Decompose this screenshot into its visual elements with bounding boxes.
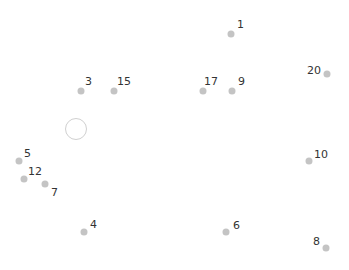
dot-label: 3 (85, 76, 92, 87)
dot-label: 17 (204, 76, 218, 87)
dot-9[interactable] (229, 88, 236, 95)
dot-12[interactable] (21, 176, 28, 183)
dot-label: 5 (24, 148, 31, 159)
dot-label: 6 (233, 220, 240, 231)
dot-7[interactable] (42, 181, 49, 188)
dot-20[interactable] (324, 71, 331, 78)
dot-5[interactable] (16, 158, 23, 165)
dot-4[interactable] (81, 229, 88, 236)
dot-label: 15 (117, 76, 131, 87)
dot-label: 4 (90, 219, 97, 230)
dot-label: 20 (307, 65, 321, 76)
dot-15[interactable] (111, 88, 118, 95)
dot-17[interactable] (200, 88, 207, 95)
dot-label: 10 (314, 149, 328, 160)
dot-8[interactable] (323, 245, 330, 252)
cursor-ring-icon (65, 118, 87, 140)
dot-puzzle-board[interactable]: 131517920512710468 (0, 0, 349, 270)
dot-1[interactable] (228, 31, 235, 38)
dot-label: 7 (51, 187, 58, 198)
dot-10[interactable] (306, 158, 313, 165)
dot-label: 9 (238, 76, 245, 87)
dot-3[interactable] (78, 88, 85, 95)
dot-6[interactable] (223, 229, 230, 236)
dot-label: 12 (28, 166, 42, 177)
dot-label: 1 (237, 19, 244, 30)
dot-label: 8 (313, 236, 320, 247)
